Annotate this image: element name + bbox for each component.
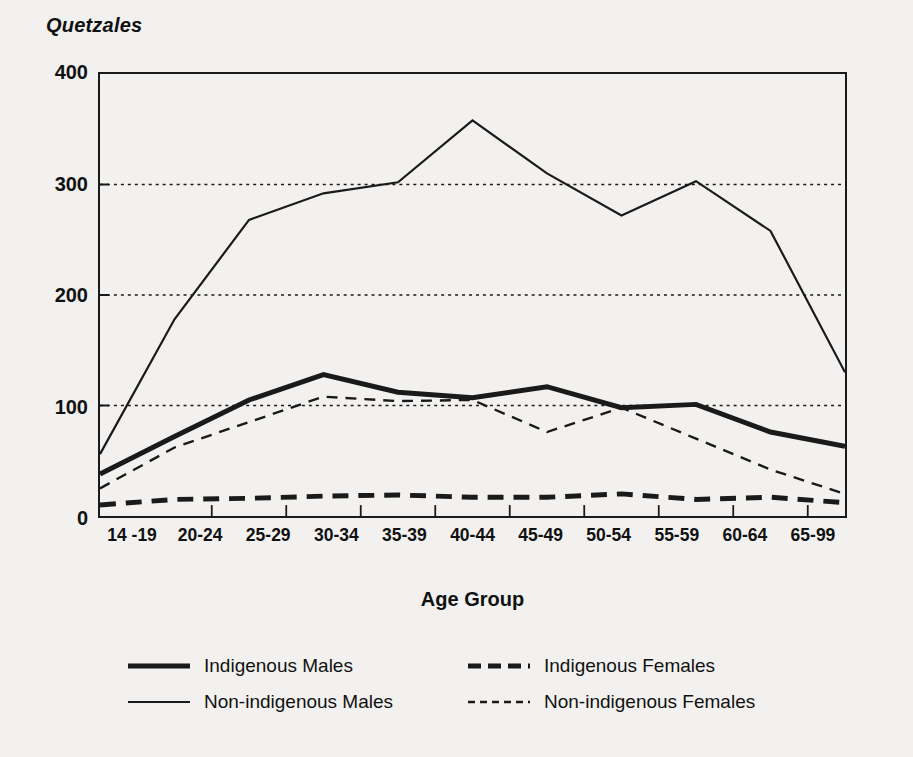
legend-item-label: Indigenous Males: [204, 655, 353, 677]
y-axis-tick-label: 400: [8, 62, 88, 82]
x-axis-tick-labels: 14 -1920-2425-2930-3435-3940-4445-4950-5…: [98, 527, 847, 553]
x-axis-tick-label: 50-54: [575, 527, 643, 553]
legend-swatch-thick-dashed: [468, 658, 530, 674]
legend-item-label: Non-indigenous Males: [204, 691, 393, 713]
y-axis-tick-label: 200: [8, 285, 88, 305]
plot-area: [98, 72, 847, 518]
plot-svg: [100, 74, 845, 516]
legend-item-label: Indigenous Females: [544, 655, 715, 677]
x-axis-tick-label: 40-44: [438, 527, 506, 553]
x-axis-tick-label: 20-24: [166, 527, 234, 553]
series-line: [100, 375, 845, 474]
legend-item-label: Non-indigenous Females: [544, 691, 755, 713]
series-line: [100, 494, 845, 505]
x-axis-tick-label: 14 -19: [98, 527, 166, 553]
x-axis-title: Age Group: [98, 588, 847, 611]
y-axis-tick-labels: 0100200300400: [0, 0, 88, 757]
legend-item[interactable]: Non-indigenous Males: [128, 691, 468, 713]
x-axis-tick-label: 65-99: [779, 527, 847, 553]
x-axis-tick-label: 30-34: [302, 527, 370, 553]
x-axis-tick-label: 60-64: [711, 527, 779, 553]
series-line: [100, 120, 845, 454]
y-axis-tick-label: 0: [8, 508, 88, 528]
x-axis-tick-label: 25-29: [234, 527, 302, 553]
chart-legend: Indigenous MalesIndigenous FemalesNon-in…: [128, 648, 828, 720]
y-axis-tick-label: 300: [8, 174, 88, 194]
legend-item[interactable]: Indigenous Males: [128, 655, 468, 677]
chart-figure: Quetzales 0100200300400 14 -1920-2425-29…: [0, 0, 913, 757]
x-axis-tick-label: 35-39: [370, 527, 438, 553]
legend-swatch-thick-solid: [128, 658, 190, 674]
x-axis-tick-label: 55-59: [643, 527, 711, 553]
legend-swatch-thin-dashed: [468, 694, 530, 710]
x-axis-tick-label: 45-49: [507, 527, 575, 553]
legend-item[interactable]: Indigenous Females: [468, 655, 808, 677]
legend-item[interactable]: Non-indigenous Females: [468, 691, 808, 713]
legend-swatch-thin-solid: [128, 694, 190, 710]
series-line: [100, 397, 845, 494]
y-axis-tick-label: 100: [8, 397, 88, 417]
